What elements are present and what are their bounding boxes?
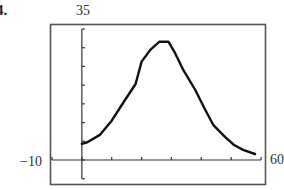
graph-plot	[0, 0, 284, 190]
axes	[52, 29, 261, 179]
data-curve	[82, 42, 255, 154]
